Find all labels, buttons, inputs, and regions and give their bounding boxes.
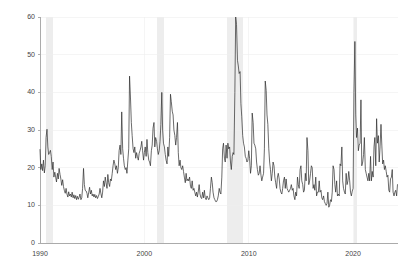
y-axis-ticks: 0102030405060 [27, 13, 40, 246]
series-line-0 [40, 17, 397, 207]
y-tick-label-10: 10 [27, 201, 35, 208]
x-tick-label-2010: 2010 [241, 250, 257, 257]
x-axis-ticks: 1990200020102020 [32, 250, 361, 257]
x-tick-label-1990: 1990 [32, 250, 48, 257]
x-tick-label-2000: 2000 [137, 250, 153, 257]
y-tick-label-50: 50 [27, 51, 35, 58]
volatility-index-chart: 0102030405060 1990200020102020 [0, 0, 413, 275]
y-tick-label-30: 30 [27, 126, 35, 133]
y-tick-label-0: 0 [31, 239, 35, 246]
y-tick-label-60: 60 [27, 13, 35, 20]
gridlines [40, 17, 398, 243]
y-tick-label-40: 40 [27, 88, 35, 95]
data-series [40, 17, 397, 207]
x-tick-label-2020: 2020 [345, 250, 361, 257]
y-tick-label-20: 20 [27, 164, 35, 171]
chart-canvas: 0102030405060 1990200020102020 [0, 0, 413, 275]
